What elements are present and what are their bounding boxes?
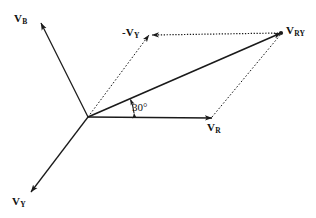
label-vb: VB	[14, 13, 27, 24]
angle-label-30-degrees: 30°	[132, 102, 147, 113]
label-vr: VR	[207, 122, 221, 133]
label-vr-sub: R	[215, 126, 221, 135]
label-vy: VY	[12, 196, 26, 207]
label-minus-vy: -VY	[122, 27, 139, 38]
phasor-diagram-canvas: VB VY VR VRY -VY 30°	[0, 0, 316, 218]
vector-drawing-area	[0, 0, 316, 218]
vertex-dot-vry	[279, 31, 283, 35]
label-vry: VRY	[286, 25, 305, 36]
label-minus-vy-sub: Y	[134, 31, 140, 40]
construction-line-top	[152, 33, 281, 35]
label-vb-base: V	[14, 12, 22, 24]
vector-vy-line	[31, 117, 88, 192]
label-vy-sub: Y	[20, 200, 26, 209]
label-vry-base: V	[286, 24, 294, 36]
construction-line-right	[212, 34, 281, 117]
label-vb-sub: B	[22, 17, 27, 26]
label-vr-base: V	[207, 121, 215, 133]
vector-vry-line	[88, 33, 281, 117]
label-minus-vy-base: -V	[122, 26, 134, 38]
label-vy-base: V	[12, 195, 20, 207]
vector-vr-line	[88, 117, 212, 118]
label-vry-sub: RY	[294, 29, 305, 38]
vector-vb-line	[41, 23, 88, 117]
